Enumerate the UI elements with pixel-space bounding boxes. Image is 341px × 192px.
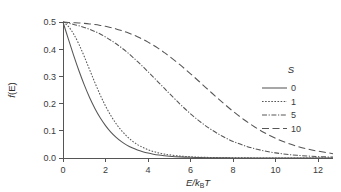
x-axis-title: E/kBT — [186, 177, 211, 189]
legend-label-S-1: 1 — [291, 97, 296, 107]
x-tick-label: 10 — [271, 165, 281, 175]
svg-text:f(E): f(E) — [6, 82, 17, 97]
y-tick-label: 0.1 — [43, 126, 56, 136]
y-tick-label: 0.3 — [43, 72, 56, 82]
x-tick-label: 12 — [313, 165, 323, 175]
y-tick-label: 0.5 — [43, 17, 56, 27]
x-tick-label: 2 — [103, 165, 108, 175]
figure-container: 024681012 0.00.10.20.30.40.5 E/kBT f(E) … — [0, 0, 341, 192]
legend-title: S — [288, 64, 295, 75]
y-tick-label: 0.4 — [43, 45, 56, 55]
x-tick-label: 8 — [231, 165, 236, 175]
y-axis-title: f(E) — [6, 82, 17, 97]
x-tick-label: 4 — [146, 165, 151, 175]
y-tick-label: 0.2 — [43, 99, 56, 109]
svg-text:E/kBT: E/kBT — [186, 177, 211, 189]
y-tick-label: 0.0 — [43, 153, 56, 163]
x-tick-label: 0 — [60, 165, 65, 175]
legend-label-S-0: 0 — [291, 83, 296, 93]
x-tick-label: 6 — [188, 165, 193, 175]
legend-label-S-10: 10 — [291, 124, 301, 134]
line-chart: 024681012 0.00.10.20.30.40.5 E/kBT f(E) … — [0, 0, 341, 192]
legend-label-S-5: 5 — [291, 110, 296, 120]
